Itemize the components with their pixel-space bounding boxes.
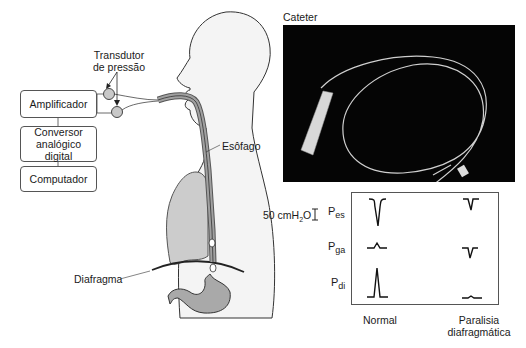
trace-paralysis-pes <box>463 199 479 210</box>
trace-normal-pdi <box>367 268 388 297</box>
normal-column-label: Normal <box>363 314 397 326</box>
pressure-traces <box>352 193 500 306</box>
pressure-traces-panel <box>351 192 499 305</box>
trace-paralysis-pdi <box>462 296 482 298</box>
pdi-label: Pdi <box>331 276 345 291</box>
pes-label: Pes <box>328 205 345 220</box>
pga-label: Pga <box>328 240 345 255</box>
trace-normal-pga <box>367 243 387 248</box>
paralysis-column-label: Paralisia diafragmática <box>444 314 514 338</box>
trace-paralysis-pga <box>462 248 478 258</box>
trace-normal-pes <box>369 199 386 226</box>
